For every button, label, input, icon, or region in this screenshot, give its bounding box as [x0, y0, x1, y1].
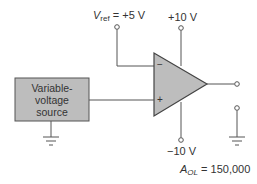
negative-supply-wire	[179, 102, 184, 142]
vref-subscript: ref	[100, 14, 109, 23]
positive-supply-label: +10 V	[168, 12, 197, 23]
open-loop-gain-label: AOL = 150,000	[180, 164, 250, 175]
output-wire	[207, 82, 239, 87]
source-label-line-3: source	[36, 106, 68, 118]
gain-value: = 150,000	[198, 163, 250, 175]
source-label-line-2: voltage	[35, 94, 69, 106]
gain-subscript: OL	[187, 168, 198, 177]
negative-supply-label: −10 V	[167, 146, 196, 157]
output-ground-terminal	[229, 106, 245, 145]
vref-wire	[115, 25, 154, 66]
vref-value: = +5 V	[110, 9, 145, 21]
source-ground-icon	[43, 121, 59, 145]
positive-supply-wire	[179, 26, 184, 66]
source-label-line-1: Variable-	[31, 82, 72, 94]
noninverting-input-label: +	[157, 95, 163, 105]
inverting-input-label: −	[157, 60, 163, 70]
vref-label: Vref = +5 V	[93, 10, 145, 21]
variable-voltage-source-label: Variable- voltage source	[15, 78, 89, 121]
circuit-diagram: − + Vref = +5 V +10 V −10 V AOL = 150,00…	[0, 0, 257, 184]
